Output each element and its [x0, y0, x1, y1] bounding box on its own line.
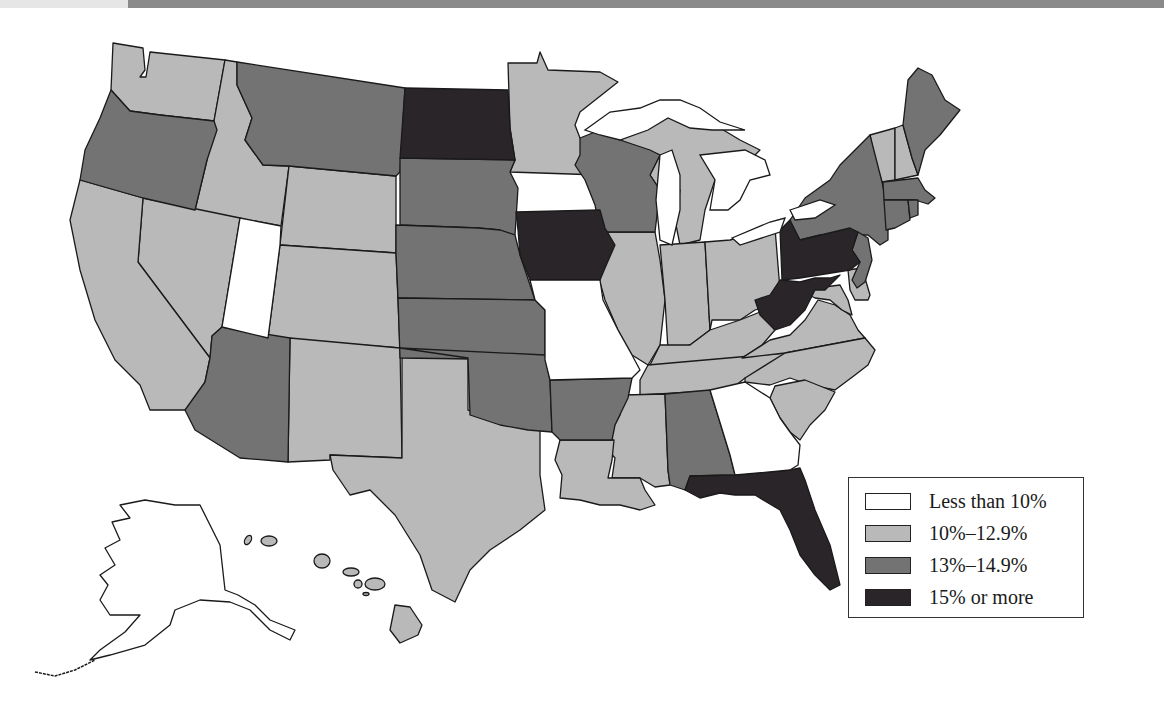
state-rhode-island[interactable] — [908, 200, 918, 218]
legend-label: 15% or more — [929, 586, 1033, 609]
legend-item-13-14-9: 13%–14.9% — [865, 552, 1027, 578]
state-wyoming[interactable] — [280, 166, 396, 253]
state-south-dakota[interactable] — [400, 158, 518, 235]
legend-item-less-than-10: Less than 10% — [865, 488, 1047, 514]
state-indiana[interactable] — [660, 242, 710, 350]
legend-swatch-medium-gray — [865, 557, 911, 574]
legend-label: Less than 10% — [929, 490, 1047, 513]
state-new-mexico[interactable] — [288, 338, 402, 462]
state-new-york[interactable] — [785, 135, 888, 245]
state-alaska[interactable] — [90, 500, 295, 660]
state-florida[interactable] — [685, 468, 840, 590]
legend-item-15-or-more: 15% or more — [865, 584, 1033, 610]
legend-swatch-dark — [865, 589, 911, 606]
map-legend: Less than 10% 10%–12.9% 13%–14.9% 15% or… — [848, 477, 1084, 618]
legend-swatch-light-gray — [865, 525, 911, 542]
state-iowa[interactable] — [516, 210, 615, 280]
legend-item-10-12-9: 10%–12.9% — [865, 520, 1027, 546]
state-connecticut[interactable] — [884, 200, 910, 230]
state-north-dakota[interactable] — [400, 88, 515, 160]
state-nebraska[interactable] — [396, 225, 535, 300]
state-montana[interactable] — [237, 62, 405, 176]
legend-swatch-white — [865, 493, 911, 510]
lake-michigan — [656, 150, 680, 245]
legend-label: 13%–14.9% — [929, 554, 1027, 577]
state-colorado[interactable] — [268, 245, 400, 348]
legend-label: 10%–12.9% — [929, 522, 1027, 545]
alaska-aleutian-islands — [35, 660, 95, 676]
